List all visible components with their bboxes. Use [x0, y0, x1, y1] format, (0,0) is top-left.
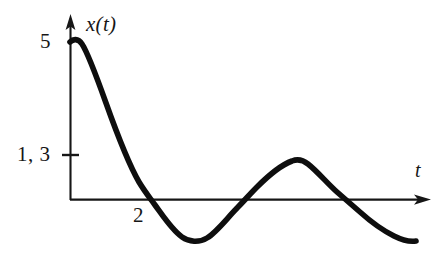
damped-oscillation-curve	[70, 40, 416, 242]
y-axis-label: x(t)	[86, 14, 116, 35]
y-tick-label-1-3: 1, 3	[17, 144, 51, 165]
figure-container: x(t) t 5 1, 3 2	[0, 0, 445, 261]
plot-canvas	[0, 0, 445, 261]
y-tick-label-5: 5	[40, 31, 51, 52]
x-axis-label: t	[415, 160, 421, 180]
x-tick-label-2: 2	[133, 205, 144, 226]
